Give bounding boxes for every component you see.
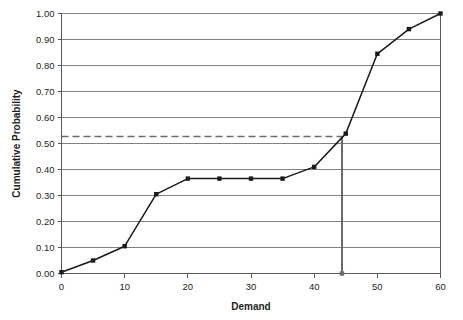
x-axis-tick-label: 60 <box>435 281 446 292</box>
data-point-marker <box>154 192 158 196</box>
data-point-marker <box>280 176 284 180</box>
y-axis-tick-label: 0.90 <box>36 34 55 45</box>
y-axis-tick-label: 0.60 <box>36 112 55 123</box>
data-point-marker <box>312 165 316 169</box>
x-axis-tick-label: 40 <box>309 281 320 292</box>
data-point-marker <box>438 11 442 15</box>
data-point-marker <box>344 131 348 135</box>
y-axis-tick-label: 0.40 <box>36 164 55 175</box>
data-point-marker <box>249 176 253 180</box>
data-point-marker <box>122 244 126 248</box>
x-axis-tick-label: 50 <box>372 281 383 292</box>
x-axis-title: Demand <box>231 301 270 312</box>
chart-background <box>0 0 463 320</box>
y-axis-tick-label: 1.00 <box>36 8 55 19</box>
y-axis-tick-label: 0.30 <box>36 190 55 201</box>
chart-canvas: 0.000.100.200.300.400.500.600.700.800.90… <box>0 0 463 320</box>
data-point-marker <box>59 270 63 274</box>
x-axis-tick-label: 10 <box>119 281 130 292</box>
data-point-marker <box>407 27 411 31</box>
y-axis-tick-label: 0.20 <box>36 216 55 227</box>
y-axis-tick-label: 0.70 <box>36 86 55 97</box>
y-axis-tick-label: 0.50 <box>36 138 55 149</box>
x-axis-tick-label: 20 <box>183 281 194 292</box>
vertical-reference-line-endpoint-marker <box>340 271 344 275</box>
x-axis-tick-label: 30 <box>246 281 257 292</box>
y-axis-tick-label: 0.00 <box>36 268 55 279</box>
x-axis-tick-label: 0 <box>59 281 64 292</box>
data-point-marker <box>91 258 95 262</box>
data-point-marker <box>217 176 221 180</box>
data-point-marker <box>375 52 379 56</box>
y-axis-tick-label: 0.10 <box>36 242 55 253</box>
y-axis-title: Cumulative Probability <box>11 89 22 198</box>
y-axis-tick-label: 0.80 <box>36 60 55 71</box>
data-point-marker <box>186 176 190 180</box>
chart-figure: 0.000.100.200.300.400.500.600.700.800.90… <box>0 0 463 320</box>
